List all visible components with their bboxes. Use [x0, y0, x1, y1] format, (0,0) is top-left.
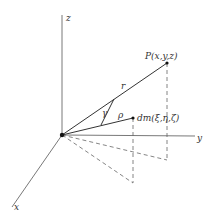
point-p-label: P(x,y,z) — [144, 51, 178, 61]
x-axis-label: x — [14, 202, 19, 212]
point-dm-label: dm(ξ,η,ζ) — [137, 113, 180, 123]
p-projection-line — [62, 135, 167, 160]
r-label: r — [121, 81, 126, 91]
y-axis — [62, 135, 195, 136]
z-axis-label: z — [65, 13, 71, 23]
vector-rho — [62, 118, 133, 135]
gamma-label: γ — [102, 108, 108, 118]
vector-r — [62, 63, 167, 135]
y-axis-label: y — [196, 133, 203, 143]
origin-point — [60, 133, 64, 137]
point-p — [165, 61, 168, 64]
dm-projection-line — [62, 135, 133, 183]
coordinate-diagram: z y x P(x,y,z) dm(ξ,η,ζ) r ρ γ — [0, 0, 215, 219]
point-dm — [131, 116, 134, 119]
rho-label: ρ — [117, 110, 124, 120]
x-axis — [12, 135, 62, 207]
